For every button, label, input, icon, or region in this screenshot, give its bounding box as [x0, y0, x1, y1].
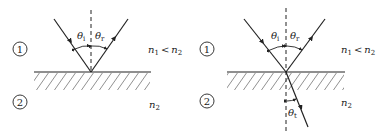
angle-label-incident: θi	[271, 30, 280, 43]
reflected-ray	[286, 19, 325, 72]
angle-arc-incident	[75, 46, 90, 49]
index-medium-2: n2	[149, 99, 160, 112]
medium-1-label: 1	[17, 44, 23, 55]
angle-arc-transmitted	[287, 99, 296, 101]
optics-diagram: θi θr 1 2 n1<n2 n2 θi θr θt 1	[0, 0, 387, 137]
angle-arc-reflected	[92, 46, 107, 49]
angle-label-reflected: θr	[95, 30, 105, 43]
panel-right: θi θr θt 1 2 n1<n2 n2	[200, 8, 375, 132]
angle-label-transmitted: θt	[288, 107, 297, 120]
medium-2-label: 2	[17, 97, 23, 108]
angle-label-incident: θi	[77, 30, 86, 43]
medium-1-label: 1	[204, 44, 210, 55]
index-medium-2: n2	[341, 97, 352, 110]
angle-arc-incident	[270, 46, 285, 50]
incident-ray	[244, 19, 286, 72]
angle-arc-reflected	[287, 46, 302, 50]
index-relation: n1<n2	[341, 44, 375, 57]
panel-left: θi θr 1 2 n1<n2 n2	[13, 10, 182, 112]
index-relation: n1<n2	[148, 44, 182, 57]
medium-2-hatch	[34, 73, 150, 90]
angle-label-reflected: θr	[290, 30, 300, 43]
medium-2-label: 2	[204, 96, 210, 107]
